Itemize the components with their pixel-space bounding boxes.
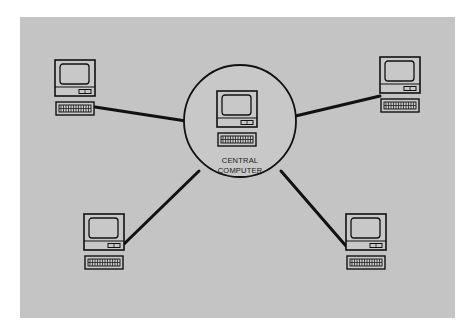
terminal-top-right <box>380 57 420 112</box>
computer-terminal-icon <box>84 214 124 269</box>
hub-label-line2: COMPUTER <box>218 166 263 175</box>
central-computer-hub: CENTRAL COMPUTER <box>184 65 296 177</box>
star-network-diagram: CENTRAL COMPUTER <box>0 0 472 336</box>
computer-terminal-icon <box>217 91 257 146</box>
terminal-bottom-right <box>346 214 386 269</box>
hub-label-line1: CENTRAL <box>222 156 258 165</box>
terminal-top-left <box>55 60 95 115</box>
computer-terminal-icon <box>380 57 420 112</box>
computer-terminal-icon <box>55 60 95 115</box>
terminal-bottom-left <box>84 214 124 269</box>
computer-terminal-icon <box>346 214 386 269</box>
